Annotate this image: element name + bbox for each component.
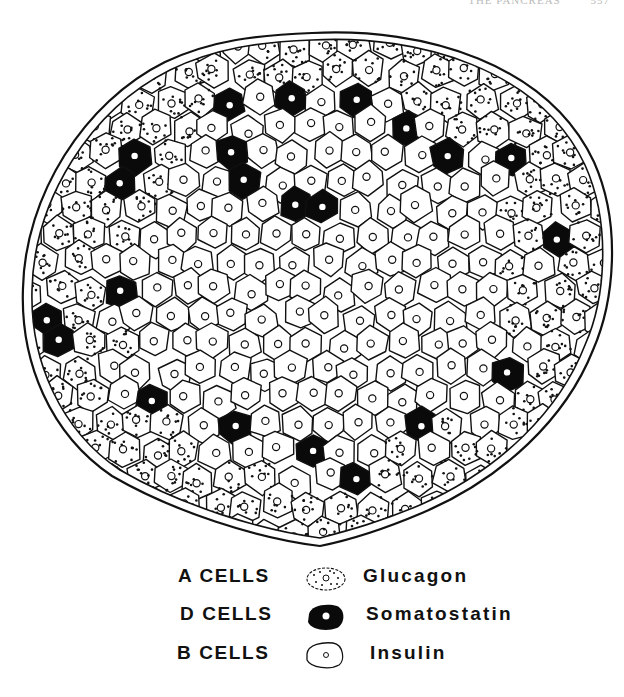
legend-cell-type: A CELLS <box>178 565 270 587</box>
a-cell <box>278 520 310 555</box>
b-cell <box>168 163 200 196</box>
plain-cell-icon <box>303 640 347 670</box>
a-cell <box>507 275 537 307</box>
b-cell <box>481 161 509 196</box>
a-cell <box>351 539 384 560</box>
b-cell <box>295 108 327 142</box>
a-cell <box>298 8 331 43</box>
legend-hormone: Insulin <box>370 642 447 664</box>
b-cell <box>262 431 293 463</box>
legend-hormone: Glucagon <box>363 565 468 587</box>
b-cell <box>309 296 339 333</box>
islet-illustration <box>0 0 624 560</box>
dotted-cell-icon <box>304 566 348 592</box>
a-cell <box>571 386 601 420</box>
a-cell <box>320 1 351 36</box>
a-cell <box>47 271 79 304</box>
b-cell <box>217 298 248 331</box>
a-cell <box>492 462 523 497</box>
b-cell <box>450 380 480 413</box>
legend-cell-type: B CELLS <box>177 642 269 664</box>
a-cell <box>407 510 440 546</box>
b-cell <box>231 217 259 250</box>
a-cell <box>158 511 191 546</box>
figure-legend: A CELLS Glucagon D CELLS Somatostatin B … <box>0 560 624 697</box>
a-cell <box>542 430 573 465</box>
b-cell <box>314 243 344 277</box>
a-cell <box>9 214 42 249</box>
b-cell <box>327 164 356 197</box>
a-cell <box>484 484 517 519</box>
black-cell-icon <box>303 602 347 632</box>
legend-hormone: Somatostatin <box>366 603 513 625</box>
b-cell <box>351 269 383 303</box>
a-cell <box>11 278 41 311</box>
legend-cell-type: D CELLS <box>180 603 272 625</box>
a-cell <box>558 404 588 440</box>
b-cell <box>292 218 320 251</box>
